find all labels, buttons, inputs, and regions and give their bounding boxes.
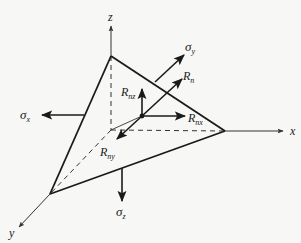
axes <box>19 26 283 227</box>
sigma-y-arrow <box>155 55 184 82</box>
edge-z-y <box>50 56 111 194</box>
centroid-point <box>140 114 145 119</box>
stress-tetrahedron-diagram: z x y σx σy σz Rnz Rn Rnx Rny <box>0 0 301 243</box>
origin-to-centroid-line <box>111 116 142 130</box>
hidden-y-edge <box>50 130 111 194</box>
R-ny-arrow <box>117 116 142 139</box>
R-nx-label: Rnx <box>187 111 203 127</box>
sigma-z-label: σz <box>116 204 126 221</box>
y-axis-label: y <box>8 226 15 240</box>
R-n-arrow <box>142 79 182 116</box>
sigma-x-label: σx <box>20 107 30 124</box>
R-nz-label: Rnz <box>120 85 136 101</box>
y-axis <box>19 194 50 227</box>
stress-arrows <box>42 55 184 201</box>
edge-y-x <box>50 131 225 194</box>
z-axis-label: z <box>107 10 113 24</box>
x-axis-label: x <box>289 124 296 138</box>
sigma-y-label: σy <box>185 39 195 56</box>
hidden-x-edge <box>111 130 225 131</box>
R-n-label: Rn <box>182 69 194 85</box>
R-ny-label: Rny <box>99 145 115 161</box>
